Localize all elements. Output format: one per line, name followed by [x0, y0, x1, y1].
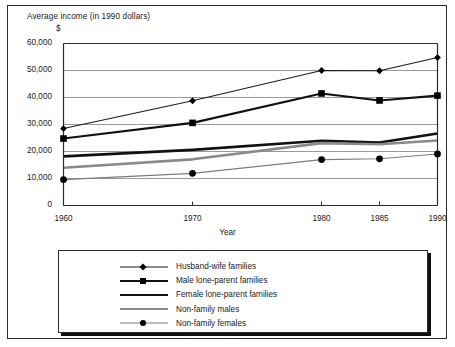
legend-item[interactable]: Female lone-parent families	[114, 287, 277, 302]
y-axis-tick-label: 20,000	[8, 146, 52, 155]
x-axis-tick-label: 1990	[418, 214, 455, 223]
legend-swatch	[114, 274, 172, 288]
y-axis-tick-label: 30,000	[8, 119, 52, 128]
legend-item-label: Female lone-parent families	[172, 290, 277, 299]
y-axis-tick-label: 0	[8, 200, 52, 209]
y-axis-tick-label: 10,000	[8, 173, 52, 182]
data-point-square	[434, 92, 441, 99]
data-point-circle	[376, 155, 383, 162]
legend-line-sample	[120, 294, 168, 296]
y-axis-tick-label: 40,000	[8, 92, 52, 101]
data-point-square	[189, 120, 196, 127]
legend-item-label: Non-family females	[172, 319, 246, 328]
data-point-square	[318, 90, 325, 97]
x-axis-tick-label: 1980	[302, 214, 342, 223]
legend-marker-circle	[140, 320, 146, 326]
data-point-square	[376, 97, 383, 104]
data-point-circle	[434, 151, 441, 158]
legend-item-label: Male lone-parent families	[172, 276, 267, 285]
legend-item[interactable]: Non-family males	[114, 302, 239, 317]
data-point-circle	[60, 176, 67, 183]
legend-swatch	[114, 316, 172, 330]
legend-marker-diamond	[139, 263, 146, 270]
x-axis-tick-label: 1960	[44, 214, 84, 223]
legend-item-label: Non-family males	[172, 305, 239, 314]
data-point-diamond	[318, 67, 325, 74]
legend-item-label: Husband-wife families	[172, 262, 256, 271]
x-axis-title: Year	[0, 228, 455, 237]
chart-legend: Husband-wife familiesMale lone-parent fa…	[58, 250, 428, 333]
legend-swatch	[114, 260, 172, 274]
series-line	[64, 58, 438, 129]
data-point-circle	[318, 156, 325, 163]
legend-marker-square	[140, 278, 146, 284]
data-point-diamond	[376, 67, 383, 74]
data-point-circle	[189, 170, 196, 177]
legend-line-sample	[120, 308, 168, 310]
data-point-diamond	[60, 125, 67, 132]
y-axis-tick-label: 50,000	[8, 65, 52, 74]
data-point-square	[60, 135, 67, 142]
data-point-diamond	[434, 54, 441, 61]
x-axis-tick-label: 1970	[173, 214, 213, 223]
x-axis-tick-label: 1985	[360, 214, 400, 223]
data-point-diamond	[189, 97, 196, 104]
legend-swatch	[114, 302, 172, 316]
legend-swatch	[114, 288, 172, 302]
figure-container: Average income (in 1990 dollars) $ 010,0…	[0, 0, 455, 347]
y-axis-tick-label: 60,000	[8, 38, 52, 47]
legend-item[interactable]: Husband-wife families	[114, 259, 256, 274]
legend-item[interactable]: Non-family females	[114, 316, 246, 331]
legend-item[interactable]: Male lone-parent families	[114, 273, 267, 288]
